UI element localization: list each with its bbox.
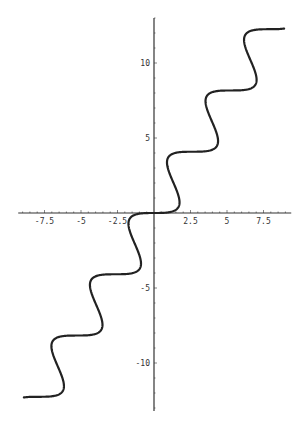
x-tick-label: -7.5 — [35, 217, 54, 226]
plot-area: -7.5-5-2.52.557.5-10-5510 — [0, 0, 306, 430]
x-tick-label: -5 — [76, 217, 86, 226]
axes — [18, 18, 291, 411]
y-tick-label: 10 — [140, 59, 150, 68]
y-tick-label: -5 — [140, 284, 150, 293]
x-tick-label: -2.5 — [108, 217, 127, 226]
y-tick-label: -10 — [136, 359, 151, 368]
x-tick-label: 7.5 — [256, 217, 271, 226]
y-tick-label: 5 — [145, 134, 150, 143]
x-tick-label: 2.5 — [183, 217, 198, 226]
x-tick-label: 5 — [225, 217, 230, 226]
